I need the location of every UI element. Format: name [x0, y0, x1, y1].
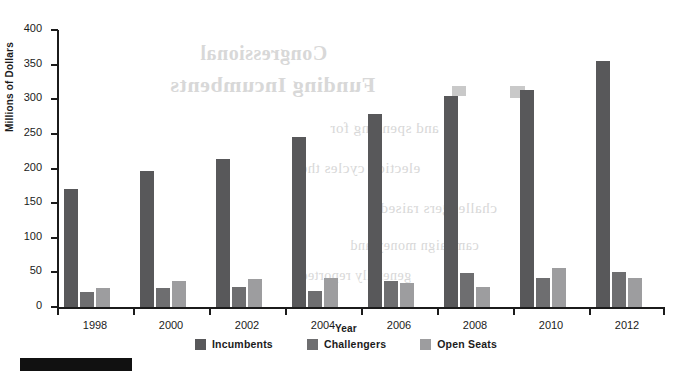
- y-axis-tick-label: 250: [24, 125, 42, 139]
- x-axis-tick: [133, 309, 135, 315]
- legend-swatch-icon: [420, 339, 431, 350]
- bar[interactable]: [552, 268, 566, 307]
- bar[interactable]: [308, 291, 322, 307]
- bar[interactable]: [96, 288, 110, 307]
- y-axis-tick: 0: [51, 306, 58, 308]
- bar[interactable]: [476, 287, 490, 307]
- bar[interactable]: [80, 292, 94, 307]
- y-axis-tick: 300: [51, 98, 58, 100]
- bar[interactable]: [324, 278, 338, 307]
- bar[interactable]: [140, 171, 154, 307]
- y-axis-tick-label: 350: [24, 56, 42, 70]
- legend-swatch-icon: [307, 339, 318, 350]
- x-axis-tick: [663, 309, 665, 315]
- bar[interactable]: [232, 287, 246, 307]
- x-axis-tick: [57, 309, 59, 315]
- x-axis-tick: [589, 309, 591, 315]
- legend-item[interactable]: Incumbents: [195, 338, 273, 350]
- y-axis-tick: 100: [51, 237, 58, 239]
- x-axis-tick: [285, 309, 287, 315]
- y-axis-title: Millions of Dollars: [4, 42, 15, 132]
- redaction-bar: [20, 358, 132, 371]
- bar[interactable]: [368, 114, 382, 307]
- y-axis-tick-label: 400: [24, 21, 42, 35]
- legend-label: Incumbents: [212, 338, 273, 350]
- bar[interactable]: [444, 96, 458, 307]
- bar[interactable]: [536, 278, 550, 307]
- bar[interactable]: [400, 283, 414, 307]
- x-axis-tick: [361, 309, 363, 315]
- y-axis-tick: 150: [51, 202, 58, 204]
- bar[interactable]: [460, 273, 474, 307]
- bar-group: [64, 30, 110, 307]
- plot-area: 050100150200250300350400 199820002002200…: [57, 30, 665, 307]
- bar-group: [140, 30, 186, 307]
- bar[interactable]: [172, 281, 186, 307]
- bar[interactable]: [216, 159, 230, 307]
- x-axis-tick: [437, 309, 439, 315]
- bar[interactable]: [520, 90, 534, 307]
- bar[interactable]: [248, 279, 262, 307]
- bar-group: [368, 30, 414, 307]
- bar-group: [216, 30, 262, 307]
- y-axis-tick: 400: [51, 29, 58, 31]
- x-axis-tick: [209, 309, 211, 315]
- y-axis-tick: 250: [51, 133, 58, 135]
- y-axis-tick-label: 0: [36, 298, 42, 312]
- x-axis-tick: [513, 309, 515, 315]
- y-axis-tick-label: 300: [24, 90, 42, 104]
- legend-label: Open Seats: [437, 338, 497, 350]
- y-axis-tick-label: 50: [30, 263, 42, 277]
- legend-swatch-icon: [195, 339, 206, 350]
- chart-legend: IncumbentsChallengersOpen Seats: [0, 338, 692, 350]
- bar-chart: Millions of Dollars 05010015020025030035…: [0, 0, 692, 377]
- legend-label: Challengers: [324, 338, 386, 350]
- bar-group: [596, 30, 642, 307]
- bar-group: [444, 30, 490, 307]
- bar[interactable]: [64, 189, 78, 307]
- y-axis-tick: 200: [51, 168, 58, 170]
- y-axis-tick: 350: [51, 64, 58, 66]
- y-axis-tick-label: 100: [24, 229, 42, 243]
- bar[interactable]: [612, 272, 626, 307]
- legend-item[interactable]: Open Seats: [420, 338, 497, 350]
- y-axis-tick-label: 150: [24, 194, 42, 208]
- bar[interactable]: [292, 137, 306, 307]
- bar[interactable]: [156, 288, 170, 307]
- bar[interactable]: [628, 278, 642, 307]
- x-axis-title: Year: [0, 323, 692, 334]
- y-axis-tick-label: 200: [24, 160, 42, 174]
- bar[interactable]: [384, 281, 398, 307]
- y-axis-tick: 50: [51, 271, 58, 273]
- bar-group: [292, 30, 338, 307]
- bar-group: [520, 30, 566, 307]
- legend-item[interactable]: Challengers: [307, 338, 386, 350]
- bar[interactable]: [596, 61, 610, 307]
